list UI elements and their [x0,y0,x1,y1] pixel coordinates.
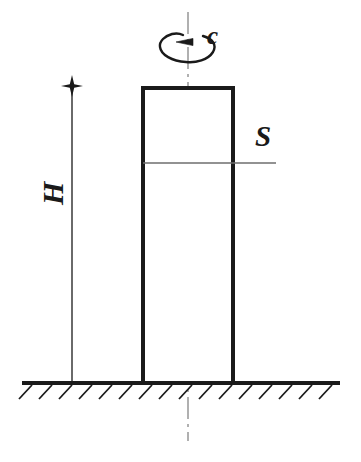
hatch-mark [79,385,92,399]
section-label: S [255,122,271,151]
hatch-mark [299,385,312,399]
diagram-vector-layer [0,0,361,462]
hatch-mark [319,385,332,399]
rotation-speed-label: c [207,23,218,48]
hatch-mark [219,385,232,399]
figure-canvas: c S H [0,0,361,462]
height-dimension-line [61,75,83,383]
dimension-star-marker [61,75,83,97]
hatch-mark [59,385,72,399]
hatch-mark [39,385,52,399]
column-body [143,88,233,383]
rotation-arrowhead [176,38,193,45]
height-label: H [38,182,68,205]
hatch-mark [199,385,212,399]
ground-hatching [19,385,332,399]
hatch-mark [279,385,292,399]
hatch-mark [139,385,152,399]
hatch-mark [259,385,272,399]
hatch-mark [119,385,132,399]
hatch-mark [99,385,112,399]
dimension-star-glyph [61,75,83,97]
hatch-mark [19,385,32,399]
hatch-mark [239,385,252,399]
hatch-mark [179,385,192,399]
hatch-mark [159,385,172,399]
column-outline [143,88,233,383]
